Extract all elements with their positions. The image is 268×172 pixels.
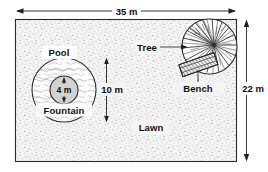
width-dimension-label: 35 m bbox=[116, 6, 138, 17]
pool-label: Pool bbox=[49, 47, 70, 58]
height-dimension: 22 m bbox=[240, 20, 267, 162]
tree-label: Tree bbox=[137, 42, 157, 53]
lawn-label: Lawn bbox=[139, 122, 164, 133]
lawn-callout: Lawn bbox=[132, 120, 170, 134]
height-dimension-label: 22 m bbox=[242, 83, 264, 94]
pool-diameter-label: 10 m bbox=[101, 84, 123, 95]
bench-label: Bench bbox=[183, 83, 213, 94]
fountain-diameter-label: 4 m bbox=[57, 85, 72, 95]
width-dimension: 35 m bbox=[16, 5, 236, 18]
fountain-label: Fountain bbox=[44, 105, 85, 116]
diagram-canvas: 35 m 22 m Pool 4 m Fountain bbox=[0, 0, 268, 172]
park-plan-diagram: 35 m 22 m Pool 4 m Fountain bbox=[0, 0, 268, 172]
